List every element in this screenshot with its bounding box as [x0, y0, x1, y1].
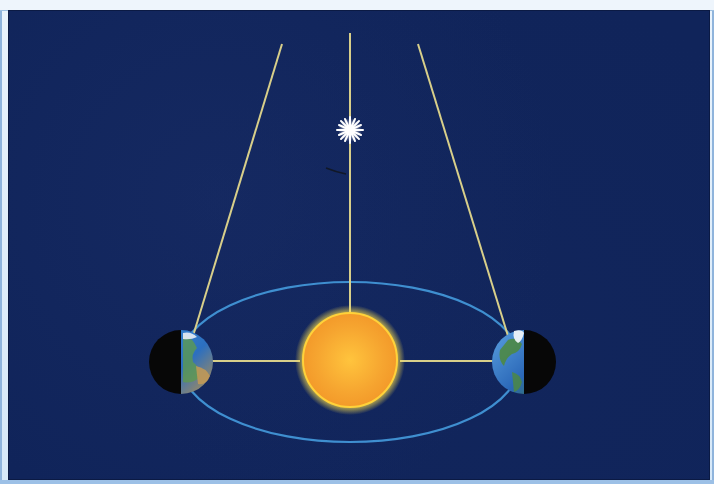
- star-icon: [337, 117, 363, 143]
- sun-icon: [295, 305, 405, 415]
- parallax-diagram: [0, 0, 714, 484]
- earth-left-icon: [149, 330, 213, 394]
- parallax-angle-arc: [326, 168, 346, 174]
- earth-right-icon: [492, 330, 556, 394]
